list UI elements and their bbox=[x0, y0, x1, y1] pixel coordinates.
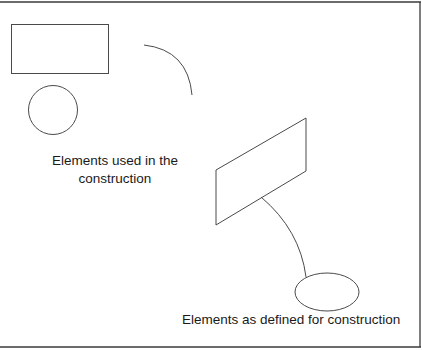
curve-shape bbox=[261, 197, 306, 277]
construction-elements bbox=[12, 25, 193, 135]
arc-shape bbox=[144, 45, 192, 95]
label-elements-used-line2: construction bbox=[40, 170, 190, 188]
label-elements-used-line1: Elements used in the bbox=[40, 152, 190, 170]
rectangle-shape bbox=[12, 25, 109, 74]
circle-shape bbox=[29, 86, 78, 135]
label-elements-used: Elements used in the construction bbox=[40, 152, 190, 188]
label-elements-defined: Elements as defined for construction bbox=[182, 311, 422, 329]
parallelogram-shape bbox=[216, 118, 306, 225]
defined-elements bbox=[216, 118, 359, 311]
ellipse-shape bbox=[295, 273, 359, 311]
